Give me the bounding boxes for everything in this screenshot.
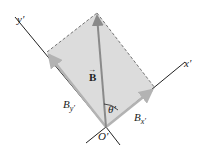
vector-component-diagram: y′ x′ O′ → B By′ Bx′ θ′: [0, 0, 206, 155]
y-prime-axis-label: y′: [17, 14, 24, 25]
component-y-subscript: y′: [70, 104, 75, 113]
component-y-letter: B: [63, 98, 70, 110]
component-y-label: By′: [63, 99, 75, 113]
vector-b-label: B: [89, 72, 96, 83]
origin-label: O′: [98, 131, 108, 142]
component-x-subscript: x′: [141, 117, 146, 126]
angle-theta-label: θ′: [108, 104, 116, 115]
x-prime-axis-label: x′: [184, 58, 191, 69]
component-x-label: Bx′: [134, 112, 146, 126]
component-x-letter: B: [134, 111, 141, 123]
